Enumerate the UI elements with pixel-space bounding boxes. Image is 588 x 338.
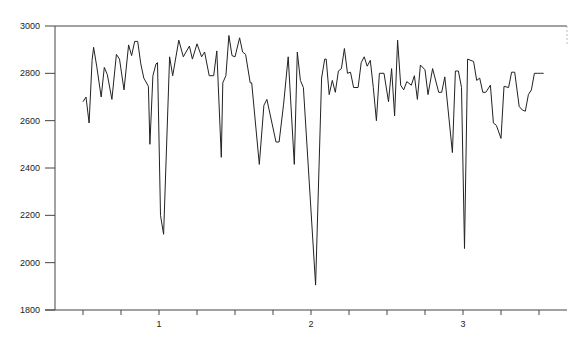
y-axis-ticks: 1800200022002400260028003000 [20,21,55,315]
x-tick-label: 1 [156,319,161,329]
x-axis-ticks: 123 [83,310,539,329]
y-tick-label: 2800 [20,68,40,78]
y-tick-label: 1800 [20,305,40,315]
plot-frame [45,26,567,310]
line-chart: 1800200022002400260028003000 123 [0,0,588,338]
y-tick-label: 2600 [20,116,40,126]
y-tick-label: 2200 [20,210,40,220]
data-series-line [83,36,544,286]
x-tick-label: 3 [460,319,465,329]
y-tick-label: 3000 [20,21,40,31]
x-tick-label: 2 [308,319,313,329]
y-tick-label: 2000 [20,258,40,268]
y-tick-label: 2400 [20,163,40,173]
